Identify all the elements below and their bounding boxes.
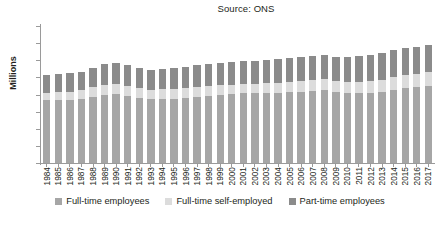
stacked-bar[interactable] [251, 61, 258, 163]
bar-column[interactable] [191, 26, 203, 163]
bar-segment-full-time-self-employed [286, 82, 293, 93]
bar-column[interactable] [180, 26, 192, 163]
bar-column[interactable] [145, 26, 157, 163]
bar-column[interactable] [110, 26, 122, 163]
bar-column[interactable] [261, 26, 273, 163]
bar-segment-full-time-employees [66, 100, 73, 163]
stacked-bar[interactable] [413, 47, 420, 163]
x-tick-label: 1999 [214, 167, 226, 191]
bar-column[interactable] [41, 26, 53, 163]
bar-segment-part-time-employees [413, 47, 420, 74]
x-tick-label: 1984 [41, 167, 53, 191]
stacked-bar[interactable] [344, 57, 351, 163]
stacked-bar[interactable] [425, 45, 432, 163]
bar-segment-full-time-self-employed [413, 74, 420, 87]
bar-column[interactable] [87, 26, 99, 163]
stacked-bar[interactable] [182, 67, 189, 163]
bar-column[interactable] [284, 26, 296, 163]
stacked-bar[interactable] [217, 63, 224, 163]
bar-segment-full-time-self-employed [355, 82, 362, 93]
stacked-bar[interactable] [66, 73, 73, 163]
bar-column[interactable] [295, 26, 307, 163]
bar-segment-full-time-employees [78, 99, 85, 163]
bar-column[interactable] [226, 26, 238, 163]
stacked-bar[interactable] [55, 74, 62, 163]
bar-segment-part-time-employees [297, 57, 304, 81]
stacked-bar[interactable] [124, 65, 131, 163]
x-tick-label: 2002 [249, 167, 261, 191]
bar-column[interactable] [319, 26, 331, 163]
bar-column[interactable] [399, 26, 411, 163]
bar-segment-full-time-employees [112, 94, 119, 163]
bar-column[interactable] [134, 26, 146, 163]
stacked-bar[interactable] [112, 63, 119, 163]
legend-item[interactable]: Full-time employees [55, 196, 149, 206]
bar-segment-part-time-employees [55, 74, 62, 92]
bar-column[interactable] [330, 26, 342, 163]
bar-segment-part-time-employees [367, 55, 374, 81]
stacked-bar[interactable] [170, 68, 177, 163]
bar-column[interactable] [388, 26, 400, 163]
bar-column[interactable] [376, 26, 388, 163]
bar-segment-part-time-employees [390, 50, 397, 77]
bar-column[interactable] [423, 26, 435, 163]
stacked-bar[interactable] [147, 70, 154, 163]
stacked-bar[interactable] [321, 55, 328, 163]
bar-segment-full-time-employees [89, 97, 96, 163]
x-tick-label: 2006 [295, 167, 307, 191]
stacked-bar[interactable] [240, 61, 247, 163]
bar-column[interactable] [64, 26, 76, 163]
bar-column[interactable] [214, 26, 226, 163]
bar-column[interactable] [307, 26, 319, 163]
x-tick-label: 2012 [365, 167, 377, 191]
bar-segment-full-time-employees [332, 92, 339, 163]
bar-series-group [41, 26, 434, 163]
stacked-bar[interactable] [355, 56, 362, 163]
stacked-bar[interactable] [263, 60, 270, 163]
bar-segment-full-time-self-employed [147, 90, 154, 100]
stacked-bar[interactable] [205, 64, 212, 163]
bar-column[interactable] [53, 26, 65, 163]
stacked-bar[interactable] [402, 48, 409, 163]
bar-column[interactable] [157, 26, 169, 163]
bar-segment-part-time-employees [228, 62, 235, 84]
stacked-bar[interactable] [89, 68, 96, 163]
legend-item[interactable]: Full-time self-employed [165, 196, 272, 206]
x-tick-label: 2017 [423, 167, 435, 191]
stacked-bar[interactable] [78, 72, 85, 163]
stacked-bar[interactable] [390, 50, 397, 163]
stacked-bar[interactable] [378, 53, 385, 163]
stacked-bar[interactable] [286, 58, 293, 163]
bar-column[interactable] [353, 26, 365, 163]
bar-column[interactable] [365, 26, 377, 163]
stacked-bar[interactable] [297, 57, 304, 163]
bar-column[interactable] [272, 26, 284, 163]
legend-item[interactable]: Part-time employees [289, 196, 385, 206]
bar-column[interactable] [249, 26, 261, 163]
stacked-bar[interactable] [274, 59, 281, 163]
stacked-bar[interactable] [309, 56, 316, 163]
stacked-bar[interactable] [228, 62, 235, 163]
bar-column[interactable] [238, 26, 250, 163]
bar-segment-full-time-employees [355, 93, 362, 163]
stacked-bar[interactable] [159, 69, 166, 163]
stacked-bar[interactable] [367, 55, 374, 163]
bar-column[interactable] [203, 26, 215, 163]
bar-segment-part-time-employees [251, 61, 258, 84]
bar-column[interactable] [122, 26, 134, 163]
stacked-bar[interactable] [101, 64, 108, 163]
bar-segment-full-time-employees [240, 93, 247, 163]
bar-column[interactable] [342, 26, 354, 163]
bar-column[interactable] [168, 26, 180, 163]
bar-column[interactable] [99, 26, 111, 163]
stacked-bar[interactable] [332, 57, 339, 164]
bar-column[interactable] [411, 26, 423, 163]
bar-segment-part-time-employees [170, 68, 177, 89]
bar-column[interactable] [76, 26, 88, 163]
x-tick-label: 2004 [272, 167, 284, 191]
stacked-bar[interactable] [193, 65, 200, 163]
stacked-bar[interactable] [136, 68, 143, 163]
bar-segment-full-time-employees [101, 95, 108, 163]
bar-segment-part-time-employees [182, 67, 189, 88]
stacked-bar[interactable] [43, 75, 50, 163]
